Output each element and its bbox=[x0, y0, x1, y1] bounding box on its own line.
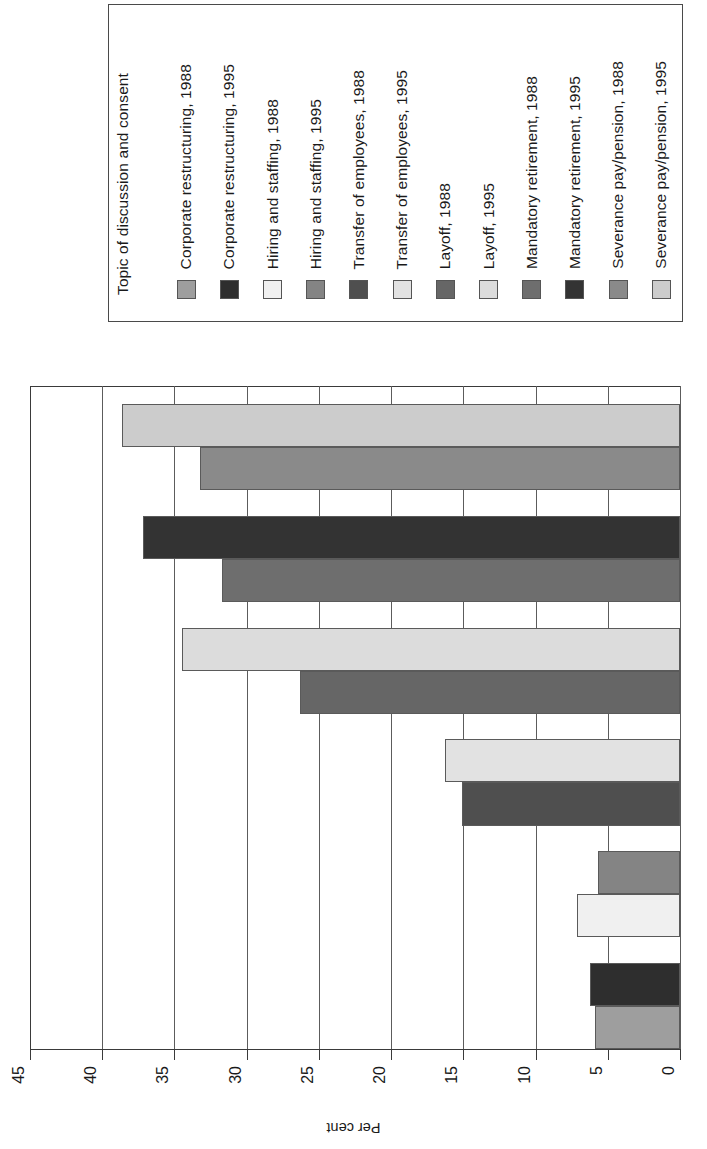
legend-item[interactable]: Layoff, 1995 bbox=[468, 183, 508, 299]
bar bbox=[222, 559, 680, 602]
axis-tick-mark bbox=[536, 1049, 537, 1060]
axis-tick-label: 5 bbox=[588, 1066, 628, 1075]
axis-tick-mark bbox=[608, 1049, 609, 1060]
axis-tick-mark bbox=[30, 1049, 31, 1060]
legend-color-swatch bbox=[479, 280, 498, 299]
bar bbox=[445, 739, 680, 782]
axis-tick-mark bbox=[463, 1049, 464, 1060]
axis-tick-label: 45 bbox=[10, 1066, 50, 1084]
legend-title: Topic of discussion and consent bbox=[115, 73, 159, 299]
legend-item[interactable]: Hiring and staffing, 1988 bbox=[252, 99, 292, 299]
legend-panel: Topic of discussion and consent Corporat… bbox=[108, 4, 683, 322]
legend-color-swatch bbox=[522, 280, 541, 299]
legend-item[interactable]: Transfer of employees, 1988 bbox=[339, 70, 379, 299]
axis-tick-label: 0 bbox=[660, 1066, 700, 1075]
legend-item[interactable]: Severance pay/pension, 1995 bbox=[641, 61, 681, 299]
axis-title: Per cent bbox=[0, 1120, 707, 1136]
axis-tick-mark bbox=[102, 1049, 103, 1060]
legend-color-swatch bbox=[220, 280, 239, 299]
axis-tick-mark bbox=[174, 1049, 175, 1060]
legend-item-label: Layoff, 1995 bbox=[481, 183, 497, 269]
legend-item[interactable]: Layoff, 1988 bbox=[425, 183, 465, 299]
legend-item[interactable]: Severance pay/pension, 1988 bbox=[598, 61, 638, 299]
legend-color-swatch bbox=[609, 280, 628, 299]
legend-title-label: Topic of discussion and consent bbox=[115, 73, 131, 295]
legend-item-label: Corporate restructuring, 1988 bbox=[178, 64, 194, 269]
bar bbox=[200, 447, 680, 490]
legend-item[interactable]: Mandatory retirement, 1995 bbox=[555, 76, 595, 299]
legend-item[interactable]: Corporate restructuring, 1995 bbox=[209, 64, 249, 299]
legend-item-label: Severance pay/pension, 1988 bbox=[610, 61, 626, 269]
legend-color-swatch bbox=[349, 280, 368, 299]
legend-color-swatch bbox=[393, 280, 412, 299]
chart-plot-area: 051015202530354045 Per cent bbox=[0, 330, 707, 1149]
axis-tick-label: 25 bbox=[299, 1066, 339, 1084]
legend-color-swatch bbox=[263, 280, 282, 299]
axis-tick-label: 10 bbox=[516, 1066, 556, 1084]
legend-item-label: Mandatory retirement, 1988 bbox=[524, 76, 540, 269]
legend-item-label: Transfer of employees, 1988 bbox=[351, 70, 367, 269]
bar bbox=[590, 963, 680, 1006]
bar bbox=[182, 628, 680, 671]
axis-tick-mark bbox=[247, 1049, 248, 1060]
legend-item-label: Hiring and staffing, 1988 bbox=[265, 99, 281, 269]
axis-tick-mark bbox=[391, 1049, 392, 1060]
gridline bbox=[102, 386, 103, 1049]
legend-item-label: Corporate restructuring, 1995 bbox=[221, 64, 237, 269]
bar bbox=[598, 851, 680, 894]
bar bbox=[595, 1006, 680, 1049]
legend-item-label: Mandatory retirement, 1995 bbox=[567, 76, 583, 269]
axis-tick-label: 15 bbox=[443, 1066, 483, 1084]
gridline bbox=[174, 386, 175, 1049]
legend-item[interactable]: Corporate restructuring, 1988 bbox=[166, 64, 206, 299]
legend-item-label: Transfer of employees, 1995 bbox=[394, 70, 410, 269]
legend-color-swatch bbox=[565, 280, 584, 299]
legend-item[interactable]: Hiring and staffing, 1995 bbox=[296, 99, 336, 299]
bar bbox=[122, 404, 680, 447]
legend-item-label: Hiring and staffing, 1995 bbox=[308, 99, 324, 269]
axis-tick-label: 20 bbox=[371, 1066, 411, 1084]
value-axis-line bbox=[30, 1049, 681, 1050]
legend-color-swatch bbox=[436, 280, 455, 299]
axis-tick-label: 40 bbox=[82, 1066, 122, 1084]
bar bbox=[462, 782, 680, 825]
legend-color-swatch bbox=[306, 280, 325, 299]
legend-item-label: Layoff, 1988 bbox=[437, 183, 453, 269]
legend-entries-container: Topic of discussion and consent Corporat… bbox=[109, 5, 684, 323]
axis-tick-label: 35 bbox=[154, 1066, 194, 1084]
legend-color-swatch bbox=[652, 280, 671, 299]
gridline bbox=[680, 386, 681, 1049]
axis-tick-mark bbox=[680, 1049, 681, 1060]
legend-color-swatch bbox=[177, 280, 196, 299]
legend-item[interactable]: Mandatory retirement, 1988 bbox=[512, 76, 552, 299]
legend-item-label: Severance pay/pension, 1995 bbox=[653, 61, 669, 269]
axis-tick-label: 30 bbox=[227, 1066, 267, 1084]
axis-tick-mark bbox=[319, 1049, 320, 1060]
bar bbox=[300, 671, 680, 714]
bar bbox=[143, 516, 680, 559]
bar bbox=[577, 894, 680, 937]
legend-item[interactable]: Transfer of employees, 1995 bbox=[382, 70, 422, 299]
